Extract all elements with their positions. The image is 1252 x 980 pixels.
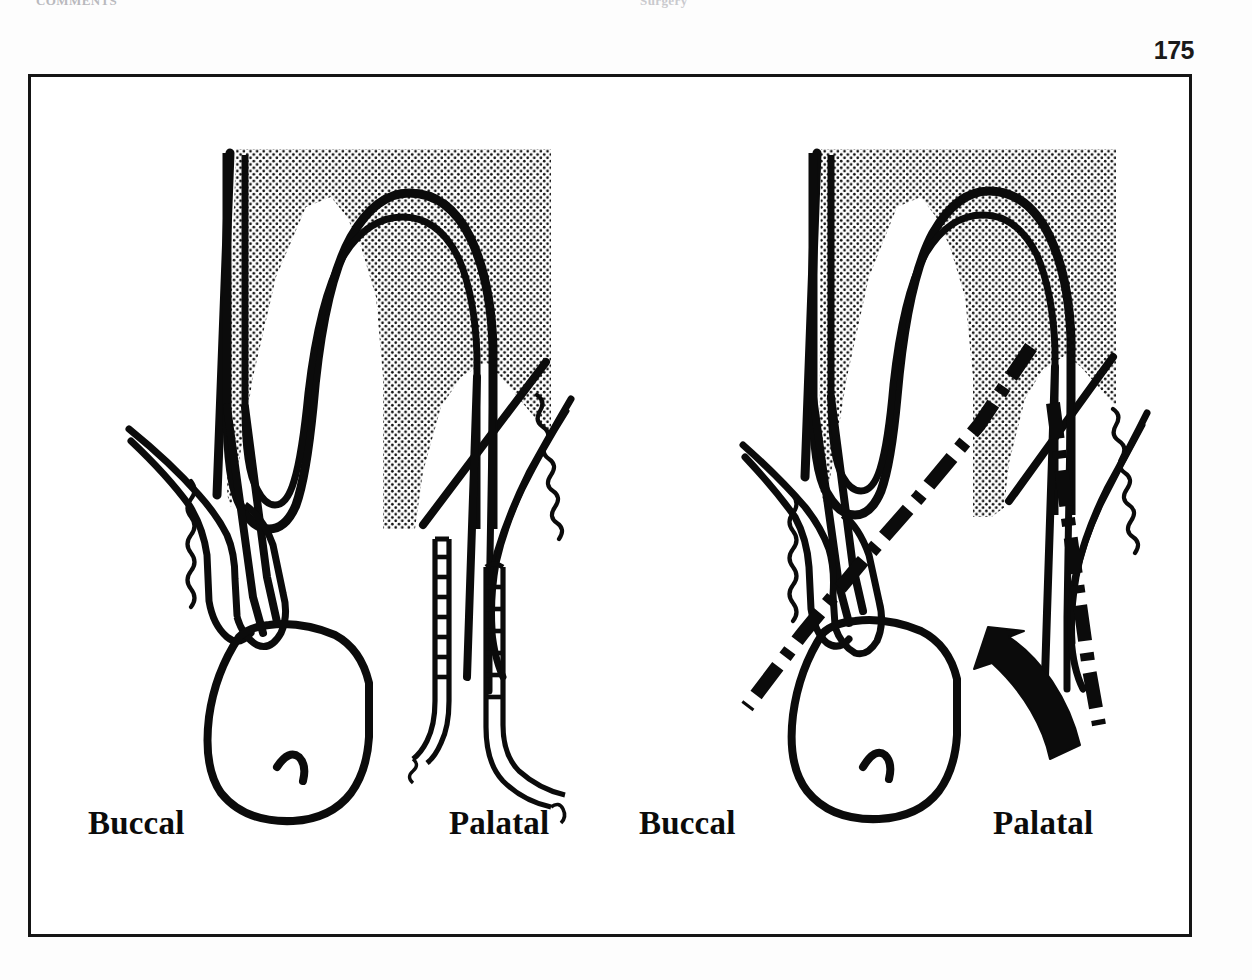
mucosa-wavy-line-buccal (188, 481, 195, 607)
tooth-crown-outline (208, 624, 370, 821)
root-palatal-surface (467, 377, 477, 677)
panel-left (129, 149, 571, 823)
periodontal-probe-external[interactable] (486, 564, 565, 823)
label-palatal-right: Palatal (993, 805, 1093, 842)
running-header-right: Surgery (640, 0, 688, 9)
periodontal-probe-in-sulcus[interactable] (410, 539, 450, 783)
panel-right (743, 149, 1147, 819)
page-number: 175 (1154, 36, 1194, 65)
figure-frame: Buccal Palatal Buccal Palatal (28, 74, 1192, 937)
crown-cusp-groove-right (863, 753, 890, 779)
label-palatal-left: Palatal (449, 805, 549, 842)
running-header-left: COMMENTS (36, 0, 117, 9)
crown-cusp-groove (277, 755, 304, 781)
label-buccal-right: Buccal (639, 805, 736, 842)
label-buccal-left: Buccal (88, 805, 185, 842)
alveolar-bone-stipple (217, 149, 556, 537)
scanned-page: COMMENTS Surgery 175 (0, 0, 1252, 980)
